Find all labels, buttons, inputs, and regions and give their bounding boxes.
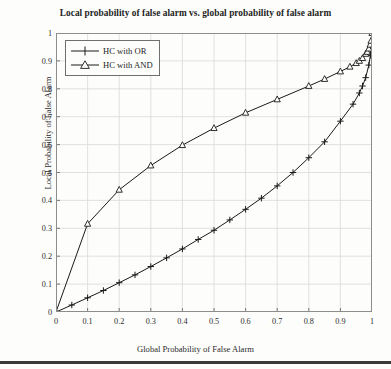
y-axis-tick-label: 0.9: [22, 56, 52, 65]
y-axis-tick-label: 0.3: [22, 224, 52, 233]
y-axis-tick-label: 0.7: [22, 112, 52, 121]
y-axis-tick-label: 1: [22, 29, 52, 38]
chart-title: Local probability of false alarm vs. glo…: [0, 8, 391, 18]
y-axis-tick-label: 0: [22, 308, 52, 317]
legend-label-hc-with-or: HC with OR: [100, 46, 146, 56]
x-axis-tick-label: 0.6: [240, 317, 250, 326]
y-axis-tick-label: 0.6: [22, 140, 52, 149]
legend-item-hc-with-and[interactable]: HC with AND: [70, 58, 153, 72]
x-axis-title: Global Probability of False Alarm: [0, 344, 391, 354]
x-axis-tick-label: 0.3: [146, 317, 156, 326]
x-axis-tick-label: 0.1: [82, 317, 92, 326]
x-axis-tick-label: 0.4: [177, 317, 187, 326]
y-axis-tick-label: 0.8: [22, 84, 52, 93]
legend: HC with OR HC with AND: [65, 40, 160, 76]
y-axis-tick-label: 0.1: [22, 280, 52, 289]
figure-page: Local probability of false alarm vs. glo…: [0, 0, 391, 369]
legend-label-hc-with-and: HC with AND: [100, 60, 153, 70]
x-axis-tick-label: 0.2: [114, 317, 124, 326]
y-axis-tick-label: 0.5: [22, 168, 52, 177]
x-axis-tick-label: 0.9: [335, 317, 345, 326]
page-bottom-rule: [0, 361, 391, 364]
x-axis-tick-label: 1: [370, 317, 374, 326]
x-axis-tick-label: 0: [54, 317, 58, 326]
legend-item-hc-with-or[interactable]: HC with OR: [70, 44, 153, 58]
plot-area: HC with OR HC with AND: [56, 33, 372, 312]
x-axis-tick-label: 0.8: [304, 317, 314, 326]
x-axis-tick-label: 0.7: [272, 317, 282, 326]
y-axis-tick-label: 0.4: [22, 196, 52, 205]
x-axis-tick-label: 0.5: [209, 317, 219, 326]
legend-sample-plus-icon: [70, 45, 100, 57]
y-axis-tick-label: 0.2: [22, 252, 52, 261]
legend-sample-triangle-icon: [70, 59, 100, 71]
